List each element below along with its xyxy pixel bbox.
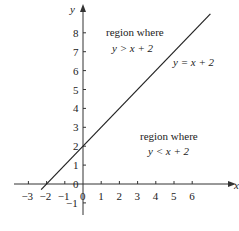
upper-region-label-line2: y > x + 2 — [111, 42, 154, 54]
y-tick-label: 2 — [73, 140, 79, 152]
line-label: y = x + 2 — [172, 56, 215, 68]
y-tick-label: 8 — [73, 27, 79, 39]
x-tick-label: 5 — [171, 190, 177, 202]
x-tick-label: −3 — [21, 190, 33, 202]
x-tick-label: 1 — [98, 190, 104, 202]
line-y-equals-x-plus-2 — [41, 14, 210, 190]
y-tick-label: 0 — [73, 178, 79, 190]
y-tick-label: 6 — [73, 65, 79, 77]
y-tick-label: 7 — [73, 46, 79, 58]
y-axis-label: y — [69, 3, 75, 15]
x-tick-label: 6 — [189, 190, 195, 202]
y-axis-arrow-icon — [80, 4, 86, 12]
y-tick-label: 4 — [73, 102, 79, 114]
x-tick-label: 4 — [153, 190, 159, 202]
y-tick-label: 5 — [73, 84, 79, 96]
y-tick-label: 3 — [73, 121, 79, 133]
y-tick-label: 1 — [73, 159, 79, 171]
x-axis-label: x — [233, 179, 239, 191]
upper-region-label-line1: region where — [106, 26, 164, 38]
x-tick-label: −2 — [40, 190, 52, 202]
y-tick-label: −1 — [66, 197, 78, 209]
lower-region-label-line2: y < x + 2 — [147, 145, 190, 157]
chart-canvas: x y −3−2−10123456 −1012345678 region whe… — [0, 0, 239, 231]
x-tick-label: 0 — [80, 190, 86, 202]
x-tick-label: 3 — [135, 190, 141, 202]
lower-region-label-line1: region where — [140, 130, 198, 142]
x-tick-label: 2 — [116, 190, 122, 202]
